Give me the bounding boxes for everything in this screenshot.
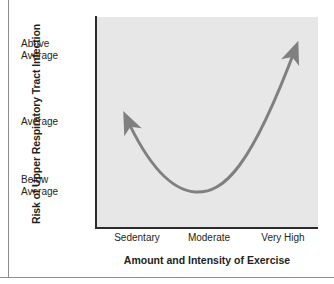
curve-right-branch [195,47,296,192]
x-tick-label-very-high: Very High [245,232,321,243]
x-tick-label-sedentary: Sedentary [96,232,178,243]
figure-border-bottom [0,277,334,278]
x-axis-title: Amount and Intensity of Exercise [96,254,318,266]
y-tick-label-below-average: Below Average [21,174,91,197]
y-tick-label-average: Average [21,116,91,128]
x-tick-label-moderate: Moderate [170,232,248,243]
j-curve-plot [96,17,318,228]
curve-left-branch [126,117,195,192]
y-tick-label-above-average: Above Average [21,38,91,61]
figure-border-left [8,0,9,277]
figure-container: Risk of Upper Respiratory Tract Infectio… [0,0,334,284]
